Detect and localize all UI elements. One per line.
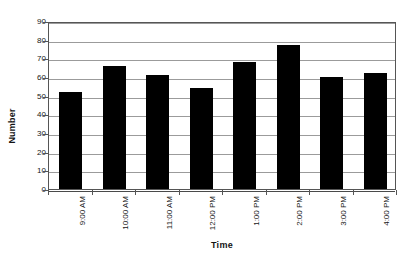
x-axis-tick (179, 190, 180, 195)
x-axis-tick-label: 10:00 AM (119, 196, 132, 242)
x-axis-tick (135, 190, 136, 195)
x-axis-tick (266, 190, 267, 195)
bar (59, 92, 82, 189)
x-axis-tick-label: 11:00 AM (163, 196, 176, 242)
bar (277, 45, 300, 189)
x-axis-tick-label: 4:00 PM (380, 196, 393, 242)
bar-chart-figure: Number 9080706050403020100 9:00 AM10:00 … (0, 0, 420, 258)
x-axis-tick (48, 190, 49, 195)
bar (320, 77, 343, 189)
x-axis-tick-label: 9:00 AM (76, 196, 89, 242)
x-axis-tick-label: 3:00 PM (337, 196, 350, 242)
bars-layer (49, 23, 395, 189)
x-axis-title: Time (48, 240, 396, 250)
bar (103, 66, 126, 189)
x-axis-tick-label: 1:00 PM (250, 196, 263, 242)
bar (233, 62, 256, 189)
x-axis-tick-label: 12:00 PM (206, 196, 219, 242)
bar (146, 75, 169, 189)
y-axis-title-label: Number (7, 108, 17, 143)
x-axis-tick-label: 2:00 PM (293, 196, 306, 242)
x-axis-tick-labels: 9:00 AM10:00 AM11:00 AM12:00 PM1:00 PM2:… (48, 196, 396, 242)
x-axis-tick (92, 190, 93, 195)
x-axis-tick (309, 190, 310, 195)
bar (364, 73, 387, 189)
x-axis-tick (396, 190, 397, 195)
x-axis-tick (222, 190, 223, 195)
bar (190, 88, 213, 189)
plot-area (48, 22, 396, 190)
y-axis-title: Number (2, 86, 22, 166)
x-axis-tick (353, 190, 354, 195)
